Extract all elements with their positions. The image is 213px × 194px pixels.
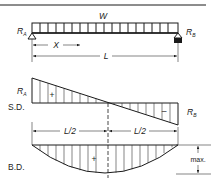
reaction-a-label: RA [17, 26, 27, 37]
half-span-dimension: L/2 L/2 [33, 126, 177, 136]
roller-support-icon [174, 33, 182, 43]
reaction-b-label: RB [186, 27, 196, 38]
svg-text:L/2: L/2 [134, 126, 146, 136]
bending-diagram: + [32, 145, 178, 173]
beam-diagram: W RA RB X L [0, 0, 213, 194]
positive-sign: + [50, 90, 55, 100]
distributed-load [32, 23, 178, 33]
negative-sign: – [162, 106, 167, 116]
span-dimension: L [33, 51, 177, 61]
svg-text:L: L [104, 51, 109, 61]
pin-support-icon [28, 33, 36, 39]
bending-diagram-label: B.D. [8, 162, 25, 172]
max-moment-dimension: max. [176, 145, 211, 174]
shear-ra-label: RA [17, 86, 27, 97]
shear-rb-label: RB [187, 107, 197, 118]
load-label: W [99, 11, 108, 21]
x-dimension: X [33, 40, 80, 50]
svg-text:X: X [52, 40, 59, 50]
bending-positive-sign: + [92, 154, 97, 164]
shear-diagram-label: S.D. [8, 102, 25, 112]
shear-diagram: + – [32, 78, 178, 125]
svg-text:L/2: L/2 [64, 126, 76, 136]
svg-text:max.: max. [190, 156, 205, 163]
